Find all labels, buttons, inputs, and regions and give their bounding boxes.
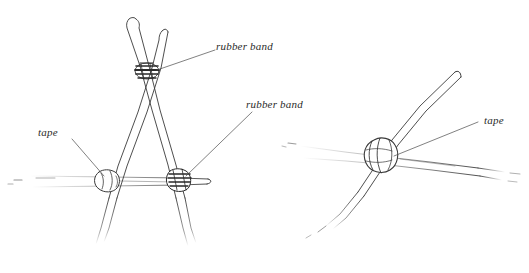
left-tape-joint: [95, 170, 120, 192]
label-rubber-band-top: rubber band: [216, 40, 273, 52]
hand-drawn-diagram: rubber band rubber band tape: [0, 0, 529, 273]
center-tape-joint: [364, 138, 397, 173]
label-tape-right: tape: [484, 114, 504, 126]
right-rubber-band-joint: [166, 169, 191, 192]
label-tape-left: tape: [38, 126, 58, 138]
label-rubber-band-right: rubber band: [246, 98, 303, 110]
